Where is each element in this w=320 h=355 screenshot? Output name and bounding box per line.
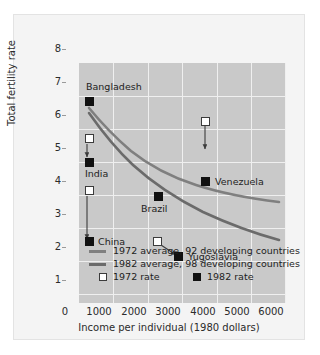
ytick-label-2: 2 <box>47 242 61 252</box>
marker-1972-venezuela <box>201 117 210 126</box>
ytick-mark <box>62 148 66 149</box>
marker-1972-china <box>85 186 94 195</box>
legend-swatch-line-1972 <box>89 250 106 253</box>
legend-swatch-line-1982 <box>89 263 106 266</box>
marker-1982-brazil <box>154 192 163 201</box>
xtick-label-2000: 2000 <box>119 306 149 317</box>
legend-row-rates: 1972 rate 1982 rate <box>89 270 279 284</box>
ytick-mark <box>62 181 66 182</box>
legend-label-1982-average: 1982 average, 98 developing countries <box>113 257 300 270</box>
ytick-label-7: 7 <box>47 77 61 87</box>
chart-legend: 1972 average, 92 developing countries 19… <box>89 244 279 284</box>
chart-panel: Bangladesh India China Brazil Venezuela … <box>13 14 305 340</box>
y-axis-label: Total fertility rate <box>6 23 17 143</box>
chart-figure: Bangladesh India China Brazil Venezuela … <box>0 0 320 355</box>
ytick-label-4: 4 <box>47 176 61 186</box>
marker-1972-india <box>85 134 94 143</box>
legend-swatch-open-1972-rate <box>99 273 107 281</box>
xtick-label-3000: 3000 <box>153 306 183 317</box>
legend-swatch-filled-1982-rate <box>193 273 201 281</box>
xtick-label-5000: 5000 <box>222 306 252 317</box>
xtick-label-0: 0 <box>53 306 77 317</box>
ytick-label-5: 5 <box>47 143 61 153</box>
ytick-mark <box>62 115 66 116</box>
legend-label-1972-average: 1972 average, 92 developing countries <box>113 244 300 257</box>
marker-1982-bangladesh <box>85 97 94 106</box>
legend-row-1982-average: 1982 average, 98 developing countries <box>89 257 279 270</box>
ytick-label-1: 1 <box>47 275 61 285</box>
plot-area: Bangladesh India China Brazil Venezuela … <box>79 63 286 303</box>
x-axis-label: Income per individual (1980 dollars) <box>44 322 294 333</box>
ytick-mark <box>62 247 66 248</box>
legend-row-1972-average: 1972 average, 92 developing countries <box>89 244 279 257</box>
xtick-label-6000: 6000 <box>256 306 286 317</box>
ytick-mark <box>62 82 66 83</box>
annotation-brazil: Brazil <box>141 204 168 214</box>
xtick-label-1000: 1000 <box>84 306 114 317</box>
ytick-label-3: 3 <box>47 209 61 219</box>
annotation-venezuela: Venezuela <box>215 177 264 187</box>
annotation-bangladesh: Bangladesh <box>86 82 142 92</box>
marker-1982-india <box>85 158 94 167</box>
annotation-india: India <box>85 169 108 179</box>
ytick-label-8: 8 <box>47 44 61 54</box>
ytick-label-6: 6 <box>47 110 61 120</box>
xtick-label-4000: 4000 <box>188 306 218 317</box>
legend-label-1982-rate: 1982 rate <box>207 270 254 283</box>
ytick-mark <box>62 280 66 281</box>
legend-label-1972-rate: 1972 rate <box>113 270 160 283</box>
curve-1972-average <box>89 108 279 202</box>
marker-1982-venezuela <box>201 177 210 186</box>
ytick-mark <box>62 214 66 215</box>
ytick-mark <box>62 49 66 50</box>
